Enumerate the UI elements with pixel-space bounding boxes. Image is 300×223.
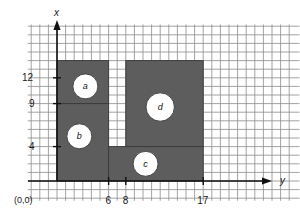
vertical-axis-label: x	[54, 8, 59, 18]
tick-label-horizontal-6: 6	[106, 196, 112, 206]
engineering-part-diagram	[0, 0, 300, 223]
hole-label-d: d	[158, 103, 163, 112]
hole-label-c: c	[143, 159, 148, 168]
tick-label-horizontal-17: 17	[197, 196, 208, 206]
hole-label-a: a	[83, 82, 88, 91]
origin-label: (0,0)	[14, 196, 33, 205]
tick-label-vertical-12: 12	[22, 73, 33, 83]
tick-label-vertical-9: 9	[29, 99, 35, 109]
tick-label-vertical-4: 4	[29, 142, 35, 152]
hole-label-b: b	[77, 132, 82, 141]
tick-label-horizontal-8: 8	[123, 196, 129, 206]
horizontal-axis-label: y	[280, 176, 285, 186]
